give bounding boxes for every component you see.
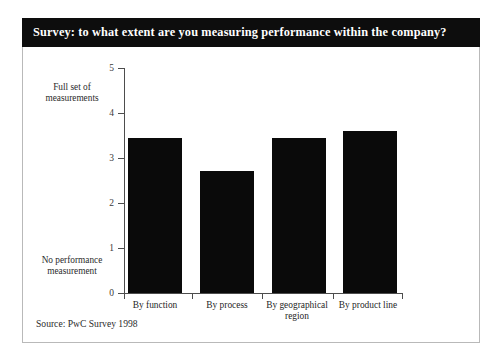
y-axis-note-low-line1: No performance	[26, 255, 118, 266]
x-tick-3	[333, 293, 334, 299]
y-axis-note-high-line2: measurements	[26, 93, 118, 104]
x-axis-line	[124, 293, 402, 294]
y-tick-label-2: 2	[96, 198, 114, 208]
y-tick-4	[118, 113, 124, 114]
x-axis-label-line: By product line	[325, 300, 411, 311]
chart-source: Source: PwC Survey 1998	[36, 318, 138, 329]
y-tick-5	[118, 68, 124, 69]
bar-by-process	[200, 171, 254, 293]
y-axis-note-high-line1: Full set of	[26, 82, 118, 93]
bar-by-product-line	[343, 131, 397, 293]
y-tick-label-0: 0	[96, 288, 114, 298]
x-tick-1	[192, 293, 193, 299]
y-axis-note-low-line2: measurement	[26, 266, 118, 277]
y-axis-note-low: No performance measurement	[26, 255, 118, 277]
y-tick-2	[118, 203, 124, 204]
bar-by-geographical-region	[272, 138, 326, 293]
y-tick-label-1: 1	[96, 243, 114, 253]
x-tick-4	[402, 293, 403, 299]
x-tick-2	[262, 293, 263, 299]
bar-chart-plot: 0 1 2 3 4 5 Full set of measurements No …	[0, 0, 502, 361]
y-tick-1	[118, 248, 124, 249]
bar-by-function	[128, 138, 182, 293]
x-axis-label-by-product-line: By product line	[325, 300, 411, 311]
y-axis-note-high: Full set of measurements	[26, 82, 118, 104]
y-tick-label-4: 4	[96, 108, 114, 118]
y-tick-label-5: 5	[96, 63, 114, 73]
y-tick-3	[118, 158, 124, 159]
y-tick-label-3: 3	[96, 153, 114, 163]
y-axis-line	[124, 68, 125, 294]
x-axis-label-line-2: region	[254, 311, 340, 322]
chart-page: Survey: to what extent are you measuring…	[0, 0, 502, 361]
x-tick-0	[124, 293, 125, 299]
